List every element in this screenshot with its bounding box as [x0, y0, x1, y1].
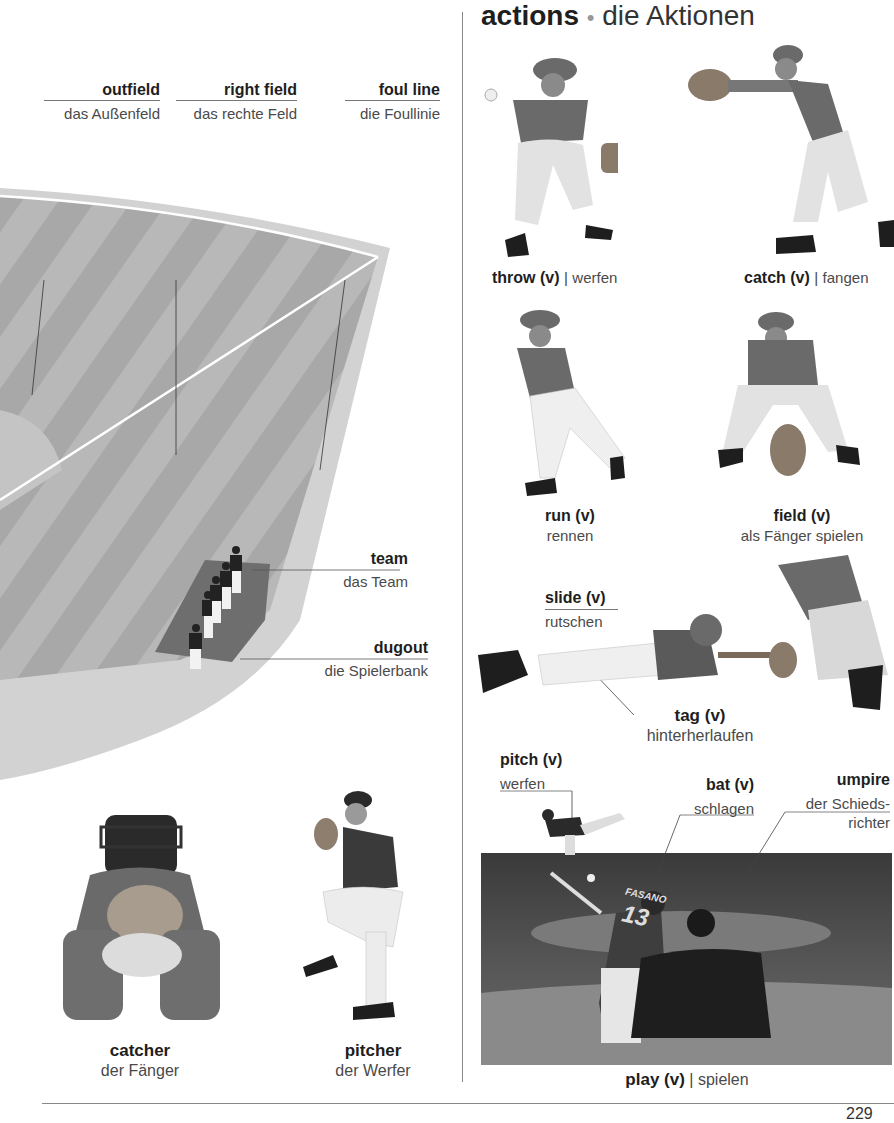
translation-text: spielen — [698, 1071, 749, 1088]
term: field (v) — [710, 506, 894, 526]
term: foul line — [330, 80, 440, 100]
term: pitch (v) — [500, 750, 562, 770]
label-umpire: umpire der Schieds- richter — [784, 770, 890, 832]
translation-text: die Spielerbank — [290, 661, 428, 680]
play-photo — [481, 853, 892, 1065]
jersey-number: 13 — [619, 900, 651, 933]
catcher-image — [55, 805, 225, 1030]
term: dugout — [290, 638, 428, 658]
translation-text: schlagen — [674, 799, 754, 818]
footer-rule — [42, 1103, 894, 1104]
translation-outfield: das Außenfeld — [20, 104, 160, 123]
translation-text: der Werfer — [300, 1061, 446, 1080]
label-outfield: outfield — [20, 80, 160, 100]
separator: | — [564, 269, 568, 286]
label-foul-line: foul line — [330, 80, 440, 100]
throw-image — [483, 55, 618, 260]
slide-tag-image — [478, 555, 894, 715]
translation-text: das Außenfeld — [20, 104, 160, 123]
heading-bullet: • — [587, 5, 595, 30]
translation-text: fangen — [823, 269, 869, 286]
term: catch (v) — [744, 269, 810, 286]
page-number: 229 — [846, 1105, 873, 1123]
leader-outfield — [44, 100, 160, 101]
label-catcher: catcher der Fänger — [60, 1041, 220, 1080]
action-run: run (v) rennen — [515, 506, 625, 545]
heading-english: actions — [481, 0, 579, 31]
translation-text: rutschen — [545, 612, 603, 631]
field-image — [718, 310, 863, 495]
label-pitcher: pitcher der Werfer — [300, 1041, 446, 1080]
baseball-field-diagram — [0, 180, 440, 800]
pitcher-image — [298, 782, 413, 1027]
translation-text: das Team — [300, 572, 408, 591]
label-right-field: right field — [160, 80, 297, 100]
action-play: play (v) | spielen — [480, 1070, 894, 1090]
action-pitch: pitch (v) werfen — [500, 750, 562, 793]
heading-german: die Aktionen — [602, 0, 755, 31]
jersey-number-text: 13 — [620, 900, 652, 932]
column-divider — [462, 12, 463, 1082]
run-image — [505, 308, 630, 498]
leader-foul-line — [345, 100, 440, 101]
action-bat: bat (v) schlagen — [674, 775, 754, 818]
leader-right-field — [176, 100, 297, 101]
term: run (v) — [515, 506, 625, 526]
section-heading: actions • die Aktionen — [481, 0, 755, 36]
translation-foul-line: die Foullinie — [330, 104, 440, 123]
term: catcher — [60, 1041, 220, 1061]
term: slide (v) — [545, 588, 605, 608]
term: team — [300, 549, 408, 569]
term: bat (v) — [674, 775, 754, 795]
label-team: team das Team — [300, 549, 408, 591]
action-slide-translation: rutschen — [545, 612, 603, 631]
translation-line-1: der Schieds- — [784, 794, 890, 813]
separator: | — [689, 1071, 693, 1088]
translation-right-field: das rechte Feld — [160, 104, 297, 123]
term: throw (v) — [492, 269, 560, 286]
term: outfield — [20, 80, 160, 100]
translation-text: das rechte Feld — [160, 104, 297, 123]
label-dugout: dugout die Spielerbank — [290, 638, 428, 680]
action-tag: tag (v) hinterherlaufen — [600, 706, 800, 745]
translation-text: der Fänger — [60, 1061, 220, 1080]
term: pitcher — [300, 1041, 446, 1061]
translation-text: rennen — [515, 526, 625, 545]
translation-text: die Foullinie — [330, 104, 440, 123]
translation-text: als Fänger spielen — [710, 526, 894, 545]
separator: | — [814, 269, 818, 286]
catch-image — [688, 42, 894, 262]
action-slide: slide (v) — [545, 588, 605, 608]
term: play (v) — [625, 1070, 685, 1089]
action-catch: catch (v) | fangen — [744, 268, 869, 288]
translation-text: werfen — [572, 269, 617, 286]
translation-line-2: richter — [784, 813, 890, 832]
action-field: field (v) als Fänger spielen — [710, 506, 894, 545]
term: right field — [160, 80, 297, 100]
term: tag (v) — [600, 706, 800, 726]
leader-slide-rule — [545, 609, 618, 610]
term: umpire — [784, 770, 890, 790]
translation-text: hinterherlaufen — [600, 726, 800, 745]
page-number-text: 229 — [846, 1105, 873, 1122]
action-throw: throw (v) | werfen — [492, 268, 617, 288]
translation-text: werfen — [500, 774, 562, 793]
